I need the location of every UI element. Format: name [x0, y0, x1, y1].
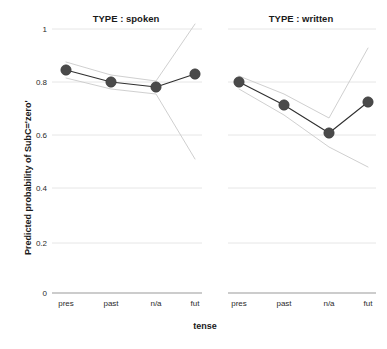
panel-spoken-fit-line [66, 70, 195, 87]
x-axis-title: tense [193, 321, 217, 331]
panel-written: TYPE : written pres past [228, 13, 376, 308]
data-point-written-pres [234, 77, 244, 87]
x-tick-label-spoken-na: n/a [150, 299, 162, 308]
panel-written-lower-ci [239, 89, 368, 167]
y-axis-title: Predicted probability of SubC='zero' [23, 100, 33, 255]
x-tick-label-written-fut: fut [364, 299, 374, 308]
x-tick-label-spoken-pres: pres [58, 299, 74, 308]
panel-spoken-upper-ci [66, 24, 195, 81]
data-point-written-past [279, 100, 289, 110]
y-tick-label-0_6: 0.6 [36, 131, 48, 140]
panel-written-fit-line [239, 82, 368, 133]
data-point-written-fut [363, 97, 373, 107]
data-point-spoken-na [151, 82, 161, 92]
y-tick-label-0_4: 0.4 [36, 184, 48, 193]
y-tick-label-0_2: 0.2 [36, 239, 48, 248]
x-tick-label-written-past: past [276, 299, 292, 308]
panel-spoken-lower-ci [66, 78, 195, 159]
y-axis-ticks: 1 0.8 0.6 0.4 0.2 0 [36, 25, 48, 298]
y-tick-label-1: 1 [43, 25, 48, 34]
panel-title-written: TYPE : written [269, 13, 334, 24]
effect-plot-figure: Predicted probability of SubC='zero' 1 0… [0, 0, 387, 349]
data-point-written-na [324, 128, 334, 138]
y-tick-label-0_8: 0.8 [36, 78, 48, 87]
data-point-spoken-pres [61, 65, 71, 75]
panel-spoken-x-ticks: pres past n/a fut [58, 299, 200, 308]
panel-title-spoken: TYPE : spoken [93, 13, 160, 24]
x-tick-label-written-pres: pres [231, 299, 247, 308]
panel-written-x-ticks: pres past n/a fut [231, 299, 373, 308]
panel-written-upper-ci [239, 48, 368, 118]
panel-spoken-gridlines [52, 29, 202, 243]
chart-canvas: Predicted probability of SubC='zero' 1 0… [0, 0, 387, 349]
data-point-spoken-fut [190, 69, 200, 79]
x-tick-label-written-na: n/a [323, 299, 335, 308]
data-point-spoken-past [106, 77, 116, 87]
panel-spoken: TYPE : spoken pres past [52, 13, 202, 308]
x-tick-label-spoken-fut: fut [191, 299, 201, 308]
panel-written-gridlines [228, 29, 376, 243]
y-tick-label-0: 0 [43, 289, 48, 298]
x-tick-label-spoken-past: past [103, 299, 119, 308]
